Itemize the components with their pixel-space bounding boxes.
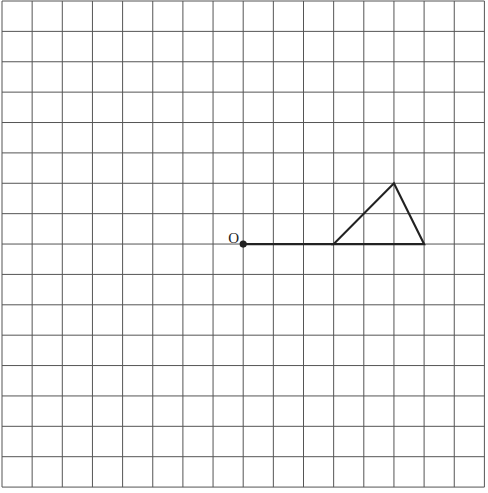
point-O — [240, 240, 247, 247]
point-O-label: O — [228, 230, 239, 246]
grid-diagram: O — [0, 0, 488, 493]
